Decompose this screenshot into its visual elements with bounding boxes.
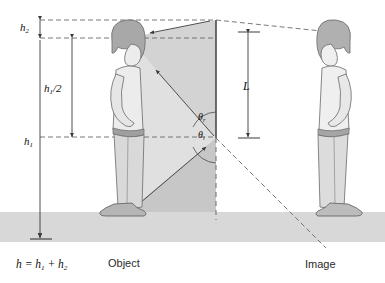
mirror-reflection-diagram: h2 h1/2 h1 L θr θi h = h1 + h2 Object Im… — [0, 0, 385, 283]
ground-band — [0, 212, 385, 242]
label-theta-r: θr — [198, 112, 205, 123]
image-person — [316, 20, 362, 216]
label-theta-i: θi — [198, 130, 205, 141]
image-legs — [318, 134, 348, 209]
label-h1: h1 — [24, 136, 33, 149]
label-object: Object — [108, 258, 140, 269]
label-image: Image — [305, 259, 336, 270]
label-h1-half: h1/2 — [44, 83, 61, 96]
label-L: L — [243, 80, 250, 92]
object-person — [100, 20, 146, 216]
object-legs — [114, 134, 144, 209]
label-height-equation: h = h1 + h2 — [16, 259, 67, 272]
diagram-canvas — [0, 0, 385, 283]
label-h2: h2 — [20, 22, 29, 35]
